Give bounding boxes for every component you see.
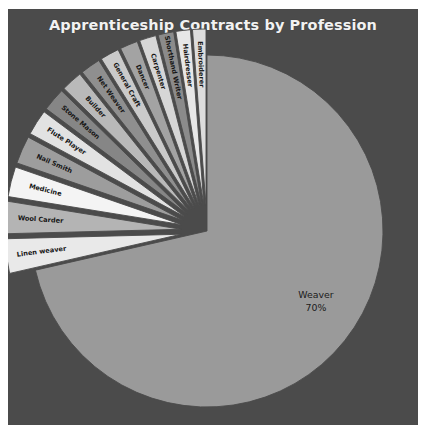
chart-figure: Apprenticeship Contracts by Profession L… [8, 9, 418, 425]
chart-screenshot: Apprenticeship Contracts by Profession L… [0, 0, 426, 433]
slice-label-weaver: Weaver [298, 289, 334, 300]
pie-chart: Linen weaverWool CarderMedicineNail Smit… [8, 9, 418, 425]
slice-value-weaver: 70% [306, 302, 327, 313]
pie-slices-group [8, 29, 383, 407]
